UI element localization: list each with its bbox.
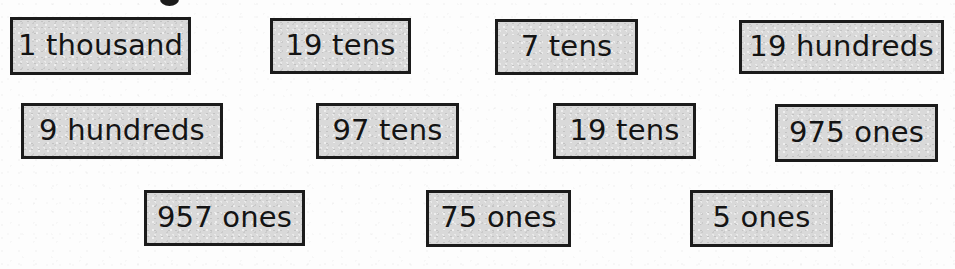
place-value-card-label: 75 ones [440,203,557,232]
place-value-card-label: 9 hundreds [39,116,205,145]
cropped-ink-mark [160,0,179,6]
place-value-card[interactable]: 975 ones [775,104,938,162]
place-value-card[interactable]: 7 tens [495,19,638,75]
place-value-card-label: 1 thousand [18,31,183,60]
place-value-card[interactable]: 19 tens [553,103,696,159]
place-value-card[interactable]: 1 thousand [10,17,191,75]
place-value-card[interactable]: 19 tens [270,18,411,74]
place-value-card-label: 975 ones [789,118,924,147]
place-value-card-label: 19 tens [285,31,395,60]
place-value-card[interactable]: 5 ones [690,190,833,247]
place-value-card[interactable]: 75 ones [426,190,571,247]
place-value-card-label: 19 tens [569,116,679,145]
place-value-card-label: 5 ones [713,203,811,232]
place-value-card[interactable]: 9 hundreds [21,103,223,159]
place-value-card[interactable]: 957 ones [144,190,305,246]
worksheet-canvas: 1 thousand19 tens7 tens19 hundreds9 hund… [0,0,955,269]
place-value-card-label: 7 tens [521,32,613,61]
place-value-card[interactable]: 19 hundreds [739,20,944,74]
place-value-card-label: 97 tens [332,116,442,145]
place-value-card[interactable]: 97 tens [316,103,459,159]
place-value-card-label: 19 hundreds [749,32,934,61]
place-value-card-label: 957 ones [157,203,292,232]
